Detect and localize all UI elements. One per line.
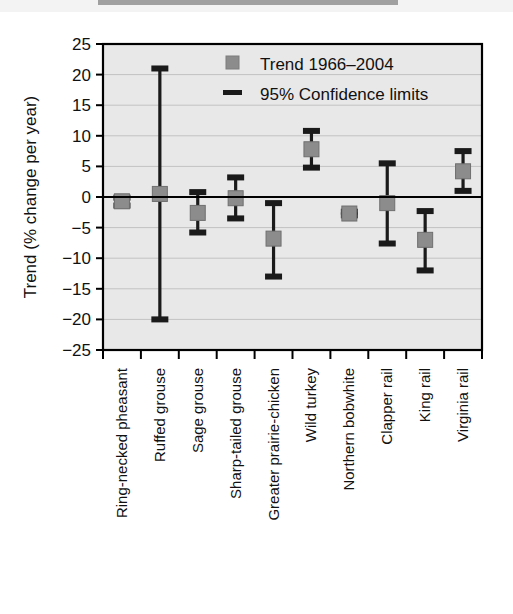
error-bar-cap-upper xyxy=(151,65,168,71)
error-bar-cap-lower xyxy=(189,229,206,235)
x-category-label: Northern bobwhite xyxy=(340,368,357,491)
trend-marker xyxy=(228,191,243,206)
x-category-label: Greater prairie-chicken xyxy=(265,368,282,521)
trend-marker xyxy=(304,142,319,157)
error-bar-cap-lower xyxy=(227,215,244,221)
y-tick-label: 25 xyxy=(72,35,91,54)
error-bar-cap-upper xyxy=(265,200,282,206)
y-tick-label: 15 xyxy=(72,96,91,115)
x-category-label: Sage grouse xyxy=(189,368,206,453)
y-axis-ticks: 2520151050−5−10−15−20−25 xyxy=(62,35,103,360)
y-tick-label: −25 xyxy=(62,341,91,360)
x-category-label: Clapper rail xyxy=(378,368,395,445)
y-tick-label: −20 xyxy=(62,310,91,329)
legend-swatch-square-icon xyxy=(226,56,239,69)
error-bar-cap-lower xyxy=(379,241,396,247)
scan-edge-dark-band xyxy=(98,0,398,5)
trend-marker xyxy=(418,232,433,247)
trend-scatter-plot: 2520151050−5−10−15−20−25 Ring-necked phe… xyxy=(0,0,513,614)
trend-marker xyxy=(342,206,357,221)
error-bar-cap-lower xyxy=(265,274,282,280)
x-category-label: Virginia rail xyxy=(454,368,471,442)
legend-swatch-bar-icon xyxy=(223,90,242,95)
chart-figure: 2520151050−5−10−15−20−25 Ring-necked phe… xyxy=(0,0,513,614)
y-tick-label: −5 xyxy=(72,219,91,238)
y-axis-title: Trend (% change per year) xyxy=(21,96,40,299)
y-tick-label: 5 xyxy=(82,157,91,176)
error-bar-cap-lower xyxy=(151,316,168,322)
x-axis-category-labels: Ring-necked pheasantRuffed grouseSage gr… xyxy=(113,367,471,520)
y-tick-label: −10 xyxy=(62,249,91,268)
scan-edge-artifact xyxy=(0,0,513,12)
trend-marker xyxy=(190,205,205,220)
error-bar-cap-upper xyxy=(417,208,434,214)
error-bar-cap-upper xyxy=(227,174,244,180)
error-bar-cap-lower xyxy=(455,188,472,194)
y-tick-label: 20 xyxy=(72,66,91,85)
y-tick-label: −15 xyxy=(62,280,91,299)
x-category-label: King rail xyxy=(416,368,433,422)
error-bar-cap-lower xyxy=(303,165,320,171)
x-axis-ticks xyxy=(103,350,482,359)
trend-marker xyxy=(266,231,281,246)
x-category-label: Ring-necked pheasant xyxy=(113,367,130,518)
legend-label: Trend 1966–2004 xyxy=(260,55,394,74)
x-category-label: Ruffed grouse xyxy=(151,368,168,462)
error-bar-cap-upper xyxy=(379,160,396,166)
y-tick-label: 10 xyxy=(72,127,91,146)
error-bar-cap-upper xyxy=(455,148,472,154)
error-bar-cap-lower xyxy=(417,267,434,273)
y-tick-label: 0 xyxy=(82,188,91,207)
x-category-label: Wild turkey xyxy=(302,368,319,443)
x-category-label: Sharp-tailed grouse xyxy=(227,368,244,499)
trend-marker xyxy=(456,164,471,179)
error-bar-cap-upper xyxy=(303,128,320,134)
error-bar-cap-upper xyxy=(189,189,206,195)
legend-label: 95% Confidence limits xyxy=(260,85,428,104)
trend-marker xyxy=(152,186,167,201)
data-point-group xyxy=(341,206,358,221)
